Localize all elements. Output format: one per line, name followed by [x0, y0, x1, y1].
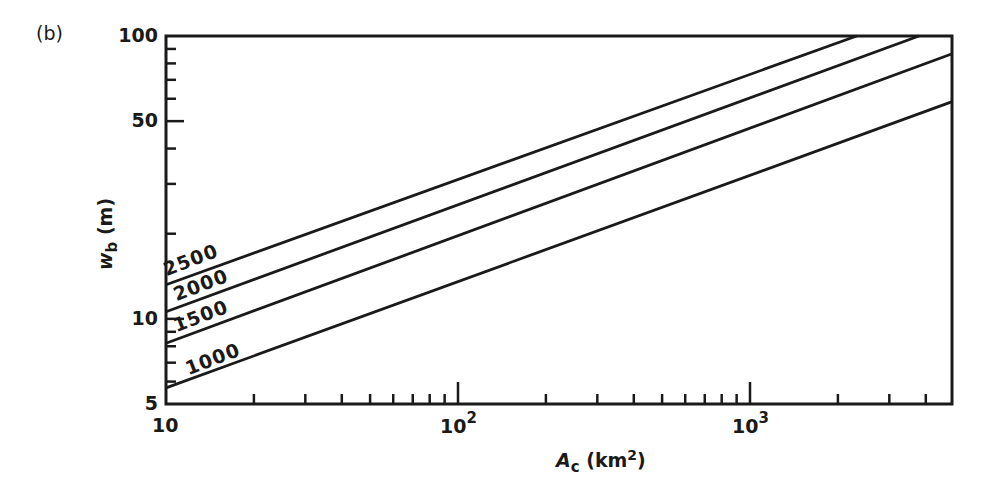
axes-frame	[166, 36, 952, 404]
x-tick-label-100: 102	[440, 412, 477, 437]
series-line-1000	[166, 102, 952, 388]
series-line-2000	[166, 36, 919, 312]
y-axis-label: wb (m)	[94, 198, 121, 270]
x-tick-label-1000: 103	[732, 412, 769, 437]
x-axis-ticks	[254, 382, 926, 404]
series-line-2500	[166, 36, 857, 285]
y-tick-label-5: 5	[98, 392, 158, 414]
panel-label: (b)	[36, 22, 63, 44]
y-tick-label-100: 100	[98, 24, 158, 46]
x-tick-label-10: 10	[152, 414, 178, 436]
series-lines	[166, 36, 952, 388]
chart-plot-area	[0, 0, 990, 488]
y-tick-label-50: 50	[98, 109, 158, 131]
series-line-1500	[166, 54, 952, 343]
y-tick-label-10: 10	[98, 307, 158, 329]
x-axis-label: Ac (km2)	[556, 447, 646, 476]
